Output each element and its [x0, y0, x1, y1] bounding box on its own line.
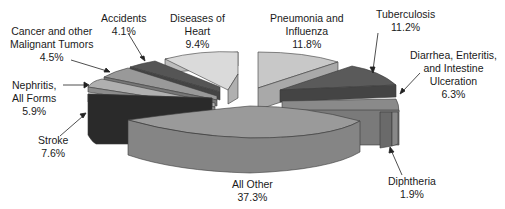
label-diarrhea: Diarrhea, Enteritis, and Intestine Ulcer… [410, 49, 497, 101]
label-accidents: Accidents 4.1% [101, 12, 147, 38]
label-diphtheria: Diphtheria 1.9% [388, 175, 436, 201]
label-stroke: Stroke 7.6% [38, 134, 68, 160]
slice-diphtheria [380, 112, 398, 148]
label-all-other: All Other 37.3% [232, 178, 273, 204]
slice-all-other [128, 106, 360, 173]
label-pneumonia: Pneumonia and Influenza 11.8% [270, 12, 344, 51]
label-cancer: Cancer and other Malignant Tumors 4.5% [10, 25, 93, 64]
label-heart: Diseases of Heart 9.4% [170, 12, 225, 51]
label-nephritis: Nephritis, All Forms 5.9% [12, 79, 56, 118]
label-tuberculosis: Tuberculosis 11.2% [376, 8, 435, 34]
